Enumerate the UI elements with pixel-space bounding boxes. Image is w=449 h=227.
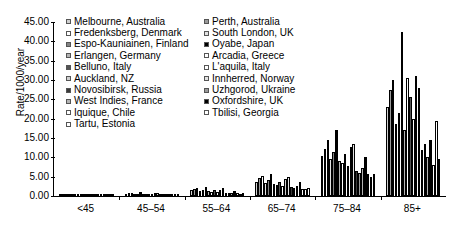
x-tick-mark — [250, 196, 251, 200]
legend-item: Melbourne, Australia — [66, 16, 204, 27]
legend-item-label: Iquique, Chile — [74, 108, 135, 118]
legend-item: Innherred, Norway — [204, 73, 354, 84]
legend-swatch-icon — [66, 31, 71, 36]
x-tick-mark — [185, 196, 186, 200]
legend-item-label: Belluno, Italy — [74, 62, 131, 72]
legend-item: Oyabe, Japan — [204, 39, 354, 50]
legend-swatch-icon — [66, 99, 71, 104]
legend-swatch-icon — [204, 53, 209, 58]
legend-item: Novosibirsk, Russia — [66, 84, 204, 95]
legend-item-label: Uzhgorod, Ukraine — [212, 85, 295, 95]
legend-item-label: Perth, Australia — [212, 17, 280, 27]
legend-item: Arcadia, Greece — [204, 50, 354, 61]
legend-item-label: Novosibirsk, Russia — [74, 85, 162, 95]
legend-item-label: Oxfordshire, UK — [212, 96, 283, 106]
legend-item-label: Auckland, NZ — [74, 74, 134, 84]
legend-item: Erlangen, Germany — [66, 50, 204, 61]
y-tick-label: 15.00 — [5, 133, 49, 143]
y-tick-label: 20.00 — [5, 114, 49, 124]
legend-item: Tbilisi, Georgia — [204, 107, 354, 118]
y-tick-label: 30.00 — [5, 75, 49, 85]
x-axis-labels: <4545–5455–6465–7475–8485+ — [53, 203, 445, 219]
legend-item: Uzhgorod, Ukraine — [204, 84, 354, 95]
y-axis-ticks: 0.005.0010.0015.0020.0025.0030.0035.0040… — [2, 0, 49, 227]
bar — [373, 174, 376, 196]
legend-item-label: L'aquila, Italy — [212, 62, 270, 72]
x-axis-label: <45 — [53, 203, 118, 214]
y-tick-label: 0.00 — [5, 191, 49, 201]
x-axis-label: 65–74 — [249, 203, 314, 214]
legend-item: Tartu, Estonia — [66, 119, 204, 130]
legend-swatch-icon — [66, 76, 71, 81]
legend-swatch-icon — [204, 76, 209, 81]
y-tick-label: 25.00 — [5, 94, 49, 104]
x-tick-mark — [119, 196, 120, 200]
bar — [307, 188, 310, 196]
legend-swatch-icon — [204, 42, 209, 47]
x-axis-label: 85+ — [380, 203, 445, 214]
bar — [111, 194, 114, 196]
legend-swatch-icon — [204, 99, 209, 104]
legend-swatch-icon — [204, 88, 209, 93]
legend-swatch-icon — [66, 53, 71, 58]
y-tick-label: 40.00 — [5, 36, 49, 46]
legend-item: Oxfordshire, UK — [204, 96, 354, 107]
legend-item-label: Erlangen, Germany — [74, 51, 161, 61]
legend-swatch-icon — [204, 31, 209, 36]
legend-item: South London, UK — [204, 27, 354, 38]
legend-item-label: Oyabe, Japan — [212, 39, 274, 49]
bar-chart: Rate/1000/year 0.005.0010.0015.0020.0025… — [0, 0, 449, 227]
legend-item-label: Tbilisi, Georgia — [212, 108, 279, 118]
legend-item: Auckland, NZ — [66, 73, 204, 84]
x-tick-mark — [381, 196, 382, 200]
legend-swatch-icon — [204, 65, 209, 70]
legend-item-label: West Indies, France — [74, 96, 163, 106]
legend-swatch-icon — [66, 88, 71, 93]
legend-item-label: Melbourne, Australia — [74, 17, 165, 27]
legend-item-label: Espo-Kauniainen, Finland — [74, 39, 189, 49]
legend-item: Iquique, Chile — [66, 107, 204, 118]
legend-swatch-icon — [66, 110, 71, 115]
legend-item-label: South London, UK — [212, 28, 294, 38]
legend-item: L'aquila, Italy — [204, 62, 354, 73]
y-tick-label: 45.00 — [5, 17, 49, 27]
x-axis-label: 55–64 — [184, 203, 249, 214]
legend-item: Fredenksberg, Denmark — [66, 27, 204, 38]
bar — [242, 193, 245, 196]
legend-swatch-icon — [66, 19, 71, 24]
legend-item: Belluno, Italy — [66, 62, 204, 73]
legend-swatch-icon — [66, 122, 71, 127]
legend-column-left: Melbourne, AustraliaFredenksberg, Denmar… — [66, 16, 204, 130]
legend-item-label: Tartu, Estonia — [74, 119, 135, 129]
y-tick-label: 10.00 — [5, 152, 49, 162]
bar-group — [381, 22, 446, 196]
legend-swatch-icon — [66, 65, 71, 70]
y-tick-label: 5.00 — [5, 172, 49, 182]
legend-item-label: Innherred, Norway — [212, 74, 294, 84]
legend-item: Perth, Australia — [204, 16, 354, 27]
bar — [177, 194, 180, 196]
x-axis-label: 75–84 — [314, 203, 379, 214]
y-tick-label: 35.00 — [5, 56, 49, 66]
legend-swatch-icon — [66, 42, 71, 47]
legend-swatch-icon — [204, 110, 209, 115]
x-axis-label: 45–54 — [118, 203, 183, 214]
legend-item: West Indies, France — [66, 96, 204, 107]
x-tick-mark — [315, 196, 316, 200]
legend-swatch-icon — [204, 19, 209, 24]
legend-item-label: Arcadia, Greece — [212, 51, 284, 61]
legend-item-label: Fredenksberg, Denmark — [74, 28, 182, 38]
legend-column-right: Perth, AustraliaSouth London, UKOyabe, J… — [204, 16, 354, 130]
legend-item: Espo-Kauniainen, Finland — [66, 39, 204, 50]
legend: Melbourne, AustraliaFredenksberg, Denmar… — [66, 16, 366, 130]
bar — [438, 159, 441, 196]
